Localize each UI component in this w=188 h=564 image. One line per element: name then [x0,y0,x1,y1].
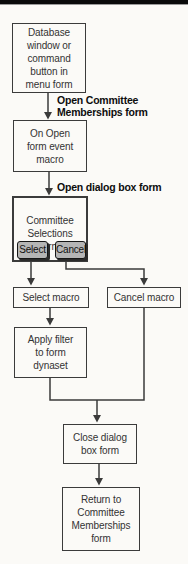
node-close-dialog: Close dialog box form [63,424,137,464]
node-cancel-macro: Cancel macro [107,287,181,308]
node-on-open-macro: On Open form event macro [13,120,87,172]
node-return-form: Return to Committee Memberships form [62,487,140,551]
cancel-button[interactable]: Cancel [55,241,86,259]
edge-label-open-memberships: Open Committee Memberships form [57,95,185,118]
arrowhead-cancelmacro [140,278,148,286]
arrowhead-dialog [45,188,53,196]
arrowhead-applyfilter [46,318,54,326]
node-committee-selections-form: Committee Selections form Select Cancel [12,196,88,262]
arrowhead-closedialog [93,415,101,423]
node-apply-filter: Apply filter to form dynaset [14,327,87,378]
select-button[interactable]: Select [17,241,48,259]
arrowhead-return [95,478,103,486]
flowchart-figure: Database window or command button in men… [0,0,188,564]
arrowhead-onopen [44,112,52,120]
node-select-macro: Select macro [13,287,89,308]
node-start: Database window or command button in men… [12,23,86,93]
edge-label-open-dialog: Open dialog box form [57,182,185,194]
